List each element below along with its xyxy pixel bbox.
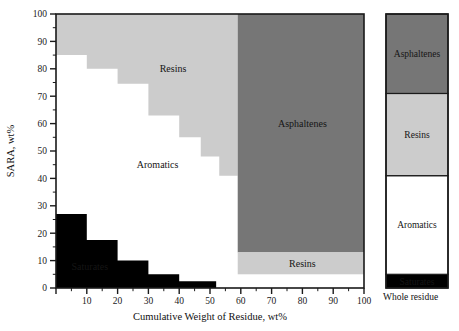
y-tick-label: 40: [38, 174, 48, 184]
y-tick-label: 100: [33, 9, 48, 19]
sara-distribution-figure: 0102030405060708090100 10203040506070809…: [0, 0, 459, 331]
whole-residue-label-saturates: Saturates: [400, 277, 435, 287]
x-tick-label: 70: [267, 296, 277, 306]
y-axis-ticks: [50, 14, 56, 288]
chart-canvas: 0102030405060708090100 10203040506070809…: [0, 0, 459, 331]
whole-residue-label-asphaltenes: Asphaltenes: [394, 49, 441, 59]
y-tick-label: 50: [38, 146, 48, 156]
y-tick-label: 70: [38, 92, 48, 102]
y-tick-label: 20: [38, 229, 48, 239]
y-tick-label: 60: [38, 119, 48, 129]
region-label-resins-band: Resins: [289, 258, 316, 269]
y-tick-label: 0: [42, 283, 47, 293]
x-tick-label: 20: [113, 296, 123, 306]
x-tick-label: 10: [82, 296, 92, 306]
whole-residue-label-aromatics: Aromatics: [397, 220, 437, 230]
x-axis-title: Cumulative Weight of Residue, wt%: [133, 311, 287, 322]
y-tick-label: 80: [38, 64, 48, 74]
region-asphaltenes: [238, 14, 364, 252]
y-tick-label: 10: [38, 256, 48, 266]
region-label-resins: Resins: [160, 63, 187, 74]
y-tick-label: 30: [38, 201, 48, 211]
x-tick-label: 100: [357, 296, 372, 306]
x-axis-tick-labels: 102030405060708090100: [82, 296, 371, 306]
x-axis-ticks: [56, 288, 364, 294]
chart-regions: [56, 14, 364, 288]
x-tick-label: 90: [328, 296, 338, 306]
y-axis-tick-labels: 0102030405060708090100: [33, 9, 48, 293]
whole-residue-caption: Whole residue: [383, 292, 438, 302]
whole-residue-bar: SaturatesAromaticsResinsAsphaltenes: [386, 14, 448, 288]
whole-residue-label-resins: Resins: [404, 130, 430, 140]
x-tick-label: 40: [174, 296, 184, 306]
region-label-asphaltenes: Asphaltenes: [278, 118, 327, 129]
x-tick-label: 30: [144, 296, 154, 306]
y-axis-title: SARA, wt%: [5, 124, 16, 177]
region-label-saturates: Saturates: [72, 261, 109, 272]
y-tick-label: 90: [38, 37, 48, 47]
x-tick-label: 50: [205, 296, 215, 306]
region-label-aromatics: Aromatics: [137, 159, 179, 170]
x-tick-label: 60: [236, 296, 246, 306]
x-tick-label: 80: [298, 296, 308, 306]
